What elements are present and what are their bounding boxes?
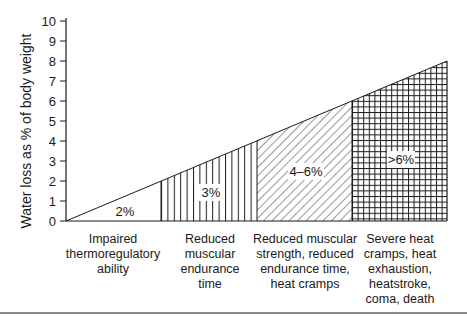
y-tick-5: 5 [49,114,56,129]
y-tick-2: 2 [49,174,56,189]
y-ticks [60,21,66,221]
y-tick-7: 7 [49,74,56,89]
y-tick-6: 6 [49,94,56,109]
segment-over6pct-fill [352,61,447,221]
y-tick-1: 1 [49,194,56,209]
caption-4-6pct: Reduced muscular strength, reduced endur… [252,232,358,292]
segment-label-2pct: 2% [116,204,135,219]
segment-label-4-6pct: 4–6% [289,164,323,179]
segment-4-6pct-fill [257,101,352,221]
segment-label-3pct: 3% [202,185,221,200]
y-tick-4: 4 [49,134,56,149]
segment-3pct-fill [161,141,257,221]
caption-over6pct: Severe heat cramps, heat exhaustion, hea… [360,232,440,307]
y-tick-9: 9 [49,34,56,49]
y-tick-8: 8 [49,54,56,69]
y-tick-3: 3 [49,154,56,169]
segment-label-over6pct: >6% [388,152,415,167]
caption-2pct: Impaired thermoregulatory ability [58,232,168,277]
y-tick-labels: 0 1 2 3 4 5 6 7 8 9 10 [42,14,56,229]
caption-3pct: Reduced muscular endurance time [170,232,250,292]
y-tick-0: 0 [49,214,56,229]
bottom-rule [0,312,467,314]
y-tick-10: 10 [42,14,56,29]
y-axis-label: Water loss as % of body weight [18,33,34,228]
